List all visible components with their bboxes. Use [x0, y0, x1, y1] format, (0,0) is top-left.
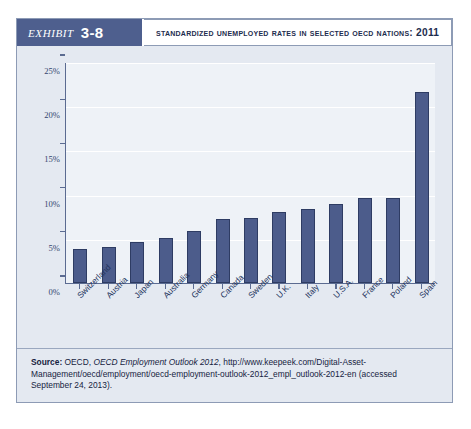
gridline	[66, 107, 435, 108]
y-axis-tick-mark	[60, 54, 65, 55]
y-axis-tick-label: 15%	[44, 154, 60, 164]
gridline	[66, 63, 435, 64]
source-text: Source: OECD, OECD Employment Outlook 20…	[31, 357, 438, 392]
bar	[415, 92, 429, 283]
gridline	[66, 196, 435, 197]
plot-region	[65, 63, 435, 284]
y-axis-tick-label: 10%	[44, 199, 60, 209]
source-note: Source: OECD, OECD Employment Outlook 20…	[17, 348, 452, 402]
y-axis-tick-label: 5%	[49, 243, 60, 253]
bar	[73, 249, 87, 283]
exhibit-word-label: Exhibit	[28, 24, 74, 41]
x-axis-tick-label: U.K.	[274, 281, 293, 300]
y-axis-tick-mark	[60, 231, 65, 232]
bar	[358, 198, 372, 283]
exhibit-number-label: 3-8	[81, 24, 104, 41]
chart-area: 0%5%10%15%20%25% SwitzerlandAustriaJapan…	[29, 55, 441, 355]
bar	[386, 198, 400, 283]
page-title: Standardized Unemployed Rates in Selecte…	[144, 27, 439, 38]
x-axis-tick-label: Italy	[303, 282, 321, 300]
y-axis-tick-mark	[60, 187, 65, 188]
exhibit-title-box: Standardized Unemployed Rates in Selecte…	[144, 19, 452, 46]
bar	[244, 218, 258, 283]
bar	[130, 242, 144, 283]
bar	[272, 212, 286, 283]
gridline	[66, 151, 435, 152]
exhibit-panel: Exhibit 3-8 Standardized Unemployed Rate…	[16, 18, 453, 403]
y-axis-tick-label: 0%	[49, 287, 60, 297]
y-axis-tick-label: 25%	[44, 66, 60, 76]
y-axis-labels: 0%5%10%15%20%25%	[29, 63, 60, 284]
y-axis-tick-mark	[60, 275, 65, 276]
y-axis-tick-mark	[60, 99, 65, 100]
y-axis-tick-mark	[60, 143, 65, 144]
bar	[159, 238, 173, 283]
exhibit-tag: Exhibit 3-8	[17, 19, 144, 46]
exhibit-header: Exhibit 3-8 Standardized Unemployed Rate…	[17, 19, 452, 46]
bar	[329, 204, 343, 283]
y-axis-tick-label: 20%	[44, 110, 60, 120]
bar	[301, 209, 315, 283]
